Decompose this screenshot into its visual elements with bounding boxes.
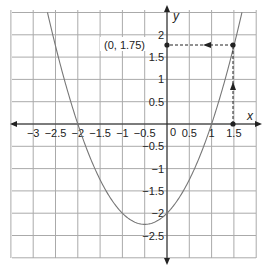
point-label: (0, 1.75)	[104, 39, 145, 51]
point-0-1-75	[164, 42, 169, 47]
y-tick-label: −1	[151, 163, 164, 175]
quadratic-graph: x y 0 −3−2.5−2−1.5−1−0.50.511.5 21.510.5…	[0, 0, 264, 267]
x-tick-label: −1	[116, 127, 129, 139]
left-arrow-icon	[203, 42, 211, 48]
y-axis-up-arrow-icon	[164, 5, 170, 12]
x-tick-label: −0.5	[134, 127, 156, 139]
up-arrow-icon	[230, 82, 236, 90]
y-tick-label: 1	[158, 73, 164, 85]
x-tick-label: −3	[27, 127, 40, 139]
y-axis-down-arrow-icon	[164, 258, 170, 265]
y-tick-label: −1.5	[142, 185, 164, 197]
y-tick-label: −0.5	[142, 140, 164, 152]
x-axis-right-arrow-icon	[255, 121, 262, 127]
y-tick-label: −2.5	[142, 230, 164, 242]
y-tick-label: 1.5	[149, 51, 164, 63]
y-tick-label: 2	[158, 29, 164, 41]
y-axis-label: y	[172, 9, 180, 23]
x-tick-label: 0.5	[182, 127, 197, 139]
point-1-5-0	[230, 121, 235, 126]
x-tick-labels: −3−2.5−2−1.5−1−0.50.511.5	[27, 127, 242, 139]
x-tick-label: −1.5	[89, 127, 111, 139]
x-tick-label: −2.5	[45, 127, 67, 139]
point-1-5-1-75	[230, 42, 235, 47]
x-axis-label: x	[246, 109, 254, 123]
x-tick-label: 1.5	[226, 127, 241, 139]
y-tick-label: 0.5	[149, 96, 164, 108]
origin-label: 0	[170, 126, 176, 138]
